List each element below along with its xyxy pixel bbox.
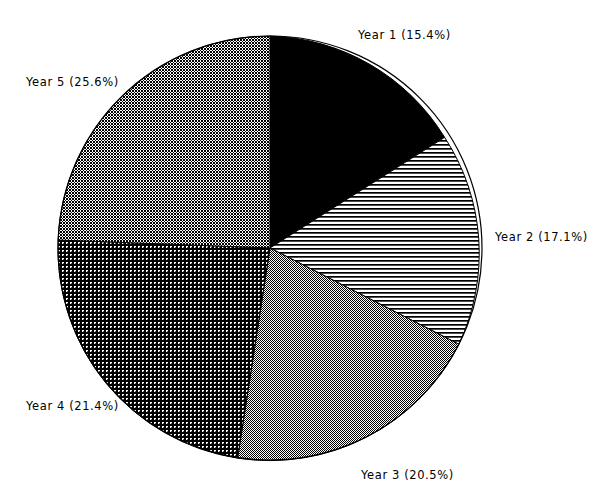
pie-label-year-5: Year 5 (25.6%) bbox=[26, 75, 119, 89]
pie-slice-year-4[interactable] bbox=[58, 240, 270, 458]
pie-slice-year-5[interactable] bbox=[58, 36, 270, 248]
pie-label-year-4: Year 4 (21.4%) bbox=[26, 399, 119, 413]
pie-label-year-1: Year 1 (15.4%) bbox=[358, 28, 451, 42]
pie-chart-figure: Year 1 (15.4%) Year 2 (17.1%) Year 3 (20… bbox=[0, 0, 611, 500]
pie-label-year-3: Year 3 (20.5%) bbox=[361, 468, 454, 482]
pie-label-year-2: Year 2 (17.1%) bbox=[495, 230, 588, 244]
